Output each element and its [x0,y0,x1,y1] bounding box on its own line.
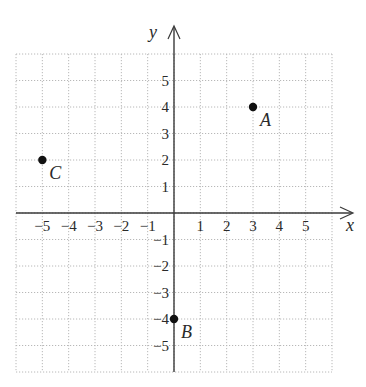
x-tick-label: −5 [34,218,50,234]
y-tick-label: −1 [153,232,169,248]
x-tick-label: 3 [249,218,257,234]
x-tick-label: 1 [197,218,205,234]
y-tick-label: −3 [153,285,169,301]
x-tick-label: 2 [223,218,231,234]
x-tick-label: −4 [61,218,77,234]
y-tick-label: −2 [153,258,169,274]
y-tick-label: −5 [153,338,169,354]
y-axis-label: y [147,22,157,42]
x-tick-label: −2 [113,218,129,234]
x-tick-labels: −5−4−3−2−112345 [34,218,309,234]
x-tick-label: 5 [302,218,310,234]
point-marker-icon [38,156,46,164]
point-label: C [49,163,62,183]
y-tick-label: 1 [162,179,170,195]
y-tick-label: 3 [162,126,170,142]
point-label: A [259,110,272,130]
point-marker-icon [249,103,257,111]
y-tick-label: 4 [162,99,170,115]
x-axis-label: x [345,215,354,235]
point-label: B [181,322,192,342]
coordinate-plane: x y −5−4−3−2−112345 −5−4−3−2−112345 ABC [0,0,366,387]
y-tick-label: 5 [162,73,170,89]
point-marker-icon [170,315,178,323]
x-tick-label: 4 [276,218,284,234]
point-b: B [170,315,192,342]
x-tick-label: −3 [87,218,103,234]
y-tick-label: 2 [162,152,170,168]
y-tick-label: −4 [153,311,169,327]
